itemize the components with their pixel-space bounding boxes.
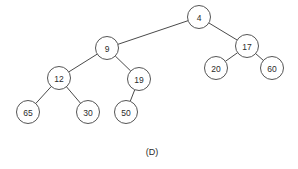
tree-node-19[interactable]: 19 [128,68,151,91]
tree-edge-12-to-65 [36,87,52,104]
tree-edge-19-to-50 [130,90,135,102]
node-label-60: 60 [267,64,277,74]
tree-edge-9-to-19 [115,56,130,71]
tree-edge-9-to-12 [69,54,98,72]
tree-node-50[interactable]: 50 [115,101,138,124]
tree-node-20[interactable]: 20 [205,57,228,80]
node-label-19: 19 [134,75,144,85]
tree-node-60[interactable]: 60 [261,57,284,80]
node-label-20: 20 [211,64,221,74]
tree-edge-17-to-60 [256,54,264,61]
node-label-50: 50 [121,108,131,118]
tree-edge-4-to-9 [118,21,188,45]
tree-edge-12-to-30 [66,87,80,104]
tree-node-65[interactable]: 65 [17,101,40,124]
figure-caption: (D) [146,147,159,157]
tree-node-30[interactable]: 30 [77,101,100,124]
node-label-30: 30 [83,108,93,118]
binary-tree-figure: 491712192060653050 (D) [0,0,298,169]
binary-tree-canvas: 491712192060653050 [0,0,298,169]
node-label-12: 12 [54,74,64,84]
tree-node-17[interactable]: 17 [236,35,259,58]
tree-node-12[interactable]: 12 [48,67,71,90]
tree-node-4[interactable]: 4 [188,6,211,29]
node-label-4: 4 [197,13,202,23]
node-label-65: 65 [23,108,33,118]
tree-edge-4-to-17 [209,23,237,40]
node-label-9: 9 [105,44,110,54]
node-label-17: 17 [242,42,252,52]
tree-edge-17-to-20 [225,53,237,62]
tree-edges-group [36,21,264,104]
tree-nodes-group: 491712192060653050 [17,6,284,124]
tree-node-9[interactable]: 9 [96,37,119,60]
